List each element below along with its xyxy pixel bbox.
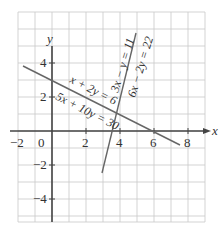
coordinate-plane: x y −2 0 2 4 6 8 4 2 −2 −4 x + 2y = 6 5x… <box>0 0 220 234</box>
tick-x-6: 6 <box>150 135 157 150</box>
tick-x-neg2: −2 <box>10 135 24 150</box>
lines <box>23 33 180 173</box>
tick-x-2: 2 <box>82 135 89 150</box>
tick-y-2: 2 <box>40 89 47 104</box>
tick-x-8: 8 <box>184 135 191 150</box>
tick-x-4: 4 <box>116 135 123 150</box>
x-axis-arrow-icon <box>203 128 211 134</box>
line-x-plus-2y-eq-6 <box>23 66 180 145</box>
tick-y-neg4: −4 <box>33 191 47 206</box>
y-axis-label: y <box>45 31 53 46</box>
tick-x-0: 0 <box>38 135 45 150</box>
x-axis-label: x <box>211 123 218 138</box>
tick-y-4: 4 <box>40 55 47 70</box>
tick-y-neg2: −2 <box>33 157 47 172</box>
